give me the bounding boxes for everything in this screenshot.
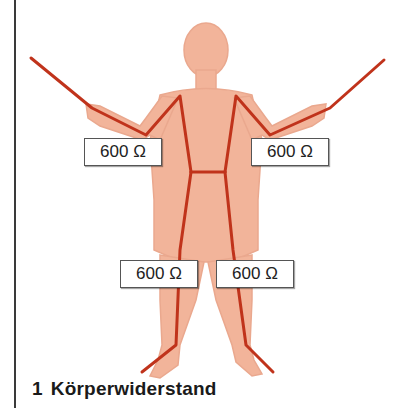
- caption-number: 1: [32, 378, 43, 399]
- resistance-label-right-leg: 600 Ω: [216, 260, 294, 288]
- resistance-label-right-arm: 600 Ω: [251, 138, 329, 166]
- human-body-diagram: [0, 0, 413, 408]
- body-silhouette: [86, 23, 326, 378]
- figure-caption: 1Körperwiderstand: [32, 378, 217, 400]
- resistance-label-left-arm: 600 Ω: [84, 138, 162, 166]
- caption-title: Körperwiderstand: [51, 378, 217, 399]
- resistance-label-left-leg: 600 Ω: [120, 260, 198, 288]
